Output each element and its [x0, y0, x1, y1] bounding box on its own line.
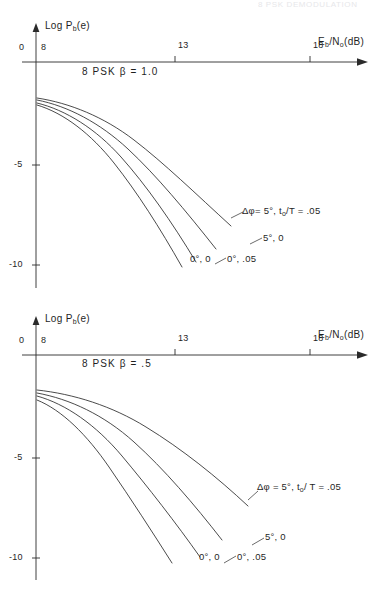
x-axis-arrow-icon [357, 351, 368, 359]
curve-label-dphi5-t05-sub: o [300, 486, 304, 493]
x-axis-title-sub: b [325, 334, 329, 341]
plot-2-curves [37, 390, 248, 563]
x-axis-title-sub2: o [340, 334, 344, 341]
y-axis-title-sub: b [73, 318, 77, 325]
curve-label-0-05: 0°, .05 [237, 551, 266, 562]
curve-5-0 [37, 100, 216, 249]
x-axis-title-mid: /N [329, 36, 340, 47]
curve-5-0 [37, 393, 222, 540]
x-tick-label-13: 13 [178, 40, 189, 50]
x-axis-title-tail: (dB) [344, 329, 364, 340]
y-axis-title-tail: (e) [77, 20, 90, 31]
y-axis-title: Log Pb(e) [45, 20, 90, 31]
curve-0-05 [37, 103, 196, 262]
plot-2-axes [22, 316, 368, 580]
x-axis-title-sub2: o [340, 41, 344, 48]
curve-label-dphi5-t05-tail: /T = .05 [286, 205, 320, 216]
x-axis-title-mid: /N [329, 329, 340, 340]
leader-5-0 [250, 238, 262, 244]
x-axis-arrow-icon [357, 58, 368, 66]
y-axis-title: Log Pb(e) [45, 313, 90, 324]
y-axis-title-main: Log P [45, 313, 73, 324]
plot-subtitle: 8 PSK β = .5 [82, 358, 152, 369]
origin-label: 0 [19, 42, 24, 52]
x-tick-label-18: 18 [313, 333, 324, 343]
x-tick-label-8: 8 [41, 335, 46, 345]
curve-label-dphi5-t05-tail: / T = .05 [304, 481, 341, 492]
curve-label-0-0: 0°, 0 [190, 253, 211, 264]
leader-0-05 [224, 556, 236, 563]
y-axis-title-sub: b [73, 25, 77, 32]
leader-5-0 [252, 538, 264, 545]
y-axis-title-main: Log P [45, 20, 73, 31]
curve-label-5-0: 5°, 0 [263, 232, 284, 243]
y-axis-arrow-icon [33, 23, 40, 32]
y-tick-label-minus10: -10 [9, 552, 23, 562]
curve-label-5-0: 5°, 0 [265, 531, 286, 542]
plot-subtitle: 8 PSK β = 1.0 [82, 66, 158, 77]
y-tick-label-minus5: -5 [14, 159, 23, 169]
origin-label: 0 [19, 335, 24, 345]
x-tick-label-13: 13 [178, 333, 189, 343]
x-axis-title-sub: b [325, 41, 329, 48]
plot-1-axes [22, 23, 368, 288]
y-tick-label-minus10: -10 [9, 259, 23, 269]
curve-0-0 [37, 400, 172, 563]
curve-dphi5-t05 [37, 390, 248, 506]
plot-beta-1: Log Pb(e) Eb/No(dB) 0 8 13 18 -5 -10 8 P… [0, 0, 389, 295]
plot-beta-05: Log Pb(e) Eb/No(dB) 0 8 13 18 -5 -10 8 P… [0, 295, 389, 590]
x-axis-title-tail: (dB) [344, 36, 364, 47]
plot-1-curves [37, 98, 231, 267]
curve-label-0-05: 0°, .05 [227, 253, 256, 264]
x-axis-title: Eb/No(dB) [318, 329, 364, 340]
y-axis-arrow-icon [33, 316, 40, 325]
leader-0-05 [215, 258, 226, 264]
curve-label-dphi5-t05-sub: o [282, 210, 286, 217]
y-axis-title-tail: (e) [77, 313, 90, 324]
curve-0-05 [37, 396, 200, 557]
x-axis-title: Eb/No(dB) [318, 36, 364, 47]
y-tick-label-minus5: -5 [14, 452, 23, 462]
curve-label-dphi5-t05-text: Δφ = 5°, t [257, 481, 300, 492]
curve-0-0 [37, 105, 182, 267]
curve-label-dphi5-t05: Δφ = 5°, to/ T = .05 [257, 481, 341, 492]
curve-dphi5-t05 [37, 98, 231, 226]
curve-label-0-0: 0°, 0 [199, 551, 220, 562]
x-tick-label-8: 8 [41, 42, 46, 52]
x-tick-label-18: 18 [313, 40, 324, 50]
figure-page: 8 PSK DEMODULATION [0, 0, 389, 590]
leader-dphi5-t05 [248, 491, 258, 500]
curve-label-dphi5-t05-text: Δφ= 5°, t [242, 205, 282, 216]
curve-label-dphi5-t05: Δφ= 5°, to/T = .05 [242, 205, 320, 216]
